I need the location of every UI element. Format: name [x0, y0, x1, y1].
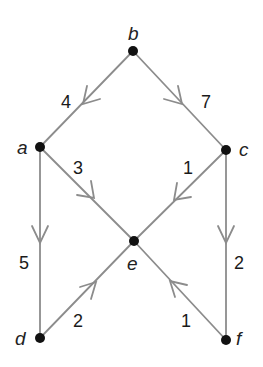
edge-b-a — [40, 51, 133, 147]
weight-label-c-e: 1 — [183, 158, 193, 178]
weight-label-a-e: 3 — [73, 158, 83, 178]
node-f — [221, 335, 231, 345]
node-b — [128, 46, 138, 56]
edge-d-e — [40, 241, 134, 338]
node-a — [35, 142, 45, 152]
edge-f-e — [134, 241, 226, 340]
graph-diagram: b a c e d f 4 7 3 1 5 2 2 1 — [0, 0, 263, 367]
node-d — [35, 333, 45, 343]
weight-label-f-e: 1 — [181, 311, 191, 331]
node-label-a: a — [17, 137, 28, 158]
edge-b-c — [133, 51, 226, 150]
weight-label-b-a: 4 — [61, 92, 71, 112]
edge-a-e — [40, 147, 134, 241]
arrow-head-icon — [174, 183, 191, 200]
node-label-f: f — [236, 328, 243, 349]
node-e — [129, 236, 139, 246]
edge-c-e — [134, 150, 226, 241]
arrow-head-icon — [77, 181, 94, 198]
node-label-e: e — [127, 253, 138, 274]
node-label-c: c — [239, 139, 249, 160]
weight-label-a-d: 5 — [19, 253, 29, 273]
node-label-b: b — [128, 23, 139, 44]
weight-label-b-c: 7 — [201, 92, 211, 112]
weight-label-d-e: 2 — [73, 311, 83, 331]
weight-label-c-f: 2 — [234, 253, 244, 273]
arrow-head-icon — [80, 282, 96, 299]
node-c — [221, 145, 231, 155]
node-label-d: d — [15, 328, 27, 349]
